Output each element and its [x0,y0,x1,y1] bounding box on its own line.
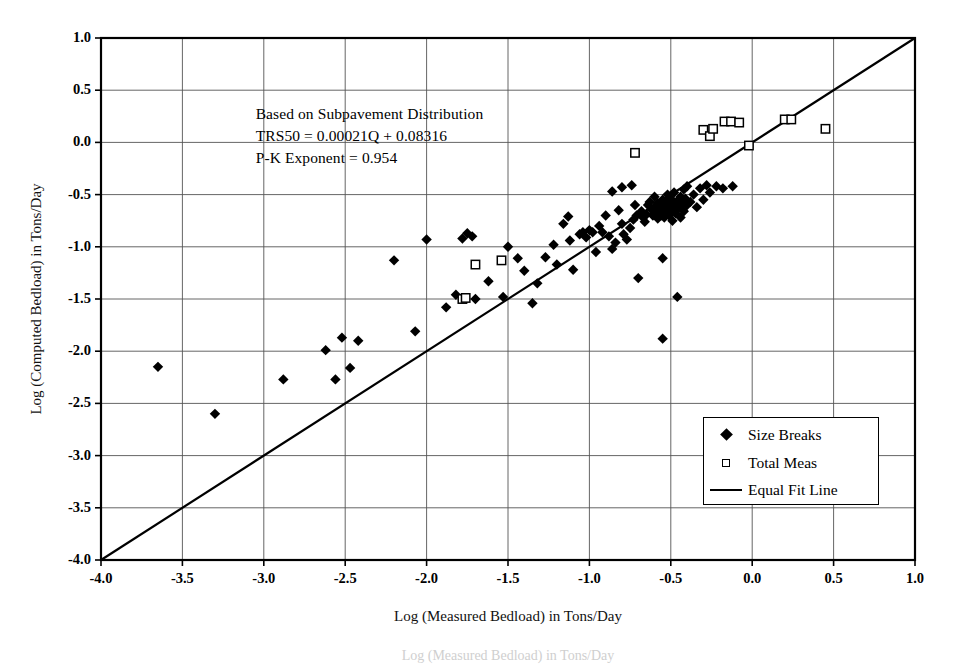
legend-label-total-meas: Total Meas [748,454,817,472]
legend-item-size-breaks: Size Breaks [704,420,878,449]
y-tick-label: 0.0 [39,133,91,150]
chart-figure: Log (Computed Bedload) in Tons/Day Log (… [0,0,959,670]
y-tick-label: -2.5 [39,394,91,411]
x-tick-label: -2.0 [397,570,457,587]
y-tick-label: -0.5 [39,186,91,203]
open-square-icon [704,459,748,467]
y-tick-label: 1.0 [39,29,91,46]
chart-legend: Size Breaks Total Meas Equal Fit Line [703,417,879,505]
legend-label-size-breaks: Size Breaks [748,426,822,444]
x-tick-label: -2.5 [315,570,375,587]
data-points [153,115,830,419]
x-tick-label: 0.5 [804,570,864,587]
filled-diamond-icon [704,430,748,439]
y-tick-label: -1.0 [39,238,91,255]
x-tick-label: -4.0 [71,570,131,587]
x-tick-label: 0.0 [722,570,782,587]
annotation-line-3: P-K Exponent = 0.954 [256,149,398,167]
x-tick-label: -3.0 [234,570,294,587]
line-swatch-icon [704,489,748,491]
x-tick-label: -3.5 [152,570,212,587]
y-tick-label: -3.0 [39,447,91,464]
y-tick-label: 0.5 [39,81,91,98]
x-tick-label: 1.0 [885,570,945,587]
y-tick-label: -2.0 [39,342,91,359]
legend-item-total-meas: Total Meas [704,448,878,477]
x-tick-label: -1.5 [478,570,538,587]
y-tick-label: -4.0 [39,551,91,568]
x-tick-label: -1.0 [559,570,619,587]
y-tick-label: -3.5 [39,499,91,516]
x-tick-label: -0.5 [641,570,701,587]
annotation-line-2: TRS50 = 0.00021Q + 0.08316 [256,127,447,145]
y-tick-label: -1.5 [39,290,91,307]
legend-item-equal-fit-line: Equal Fit Line [704,475,878,504]
legend-label-equal-fit-line: Equal Fit Line [748,481,838,499]
figure-caption: Log (Measured Bedload) in Tons/Day [101,648,915,664]
annotation-line-1: Based on Subpavement Distribution [256,105,484,123]
